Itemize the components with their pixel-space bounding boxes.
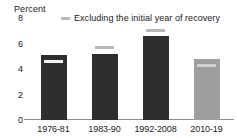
bar-group [194, 18, 220, 120]
x-axis-tick-label: 1992-2008 [134, 124, 176, 134]
excluding-initial-year-marker [44, 60, 64, 63]
y-axis-tick-label: 2 [1, 90, 23, 100]
bar [92, 54, 118, 120]
bar-group [143, 18, 169, 120]
y-axis-tick-label: 8 [1, 13, 23, 23]
bar [41, 55, 67, 120]
x-axis-tick-label: 2010-19 [190, 124, 222, 134]
bar [194, 59, 220, 120]
x-axis-tick-label: 1976-81 [37, 124, 69, 134]
bar-group [41, 18, 67, 120]
excluding-initial-year-marker [95, 46, 115, 49]
y-axis-tick-label: 0 [1, 115, 23, 125]
plot-area: 02468 [28, 18, 232, 120]
excluding-initial-year-marker [146, 29, 166, 32]
bar-chart: Percent Excluding the initial year of re… [0, 0, 237, 138]
y-axis-tick-label: 4 [1, 64, 23, 74]
y-axis-tick-label: 6 [1, 39, 23, 49]
excluding-initial-year-marker [197, 64, 217, 67]
x-axis-tick-label: 1983-90 [88, 124, 120, 134]
bar-group [92, 18, 118, 120]
bar [143, 36, 169, 120]
